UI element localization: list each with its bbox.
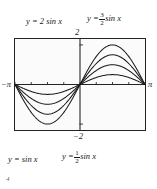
fraction-denominator: 2 (74, 158, 80, 165)
equation-prefix: y = (87, 13, 99, 23)
fraction-one-half: 12 (74, 150, 80, 165)
x-axis-tick-label-left: −π (1, 80, 11, 89)
equation-suffix: sin x (80, 151, 96, 161)
y-axis-tick-label-top: 2 (75, 28, 79, 37)
equation-label-three-halves-sinx: y =32sin x (87, 12, 121, 27)
figure-corner-mark: 4 (6, 176, 10, 183)
sine-amplitude-figure: y = 2 sin x y =32sin x y = sin x y =12si… (0, 0, 157, 189)
equation-text: y = sin x (8, 154, 38, 164)
fraction-three-halves: 32 (99, 12, 105, 27)
sine-curves-plot (15, 39, 145, 130)
equation-prefix: y = (62, 151, 74, 161)
equation-text: y = 2 sin x (26, 16, 62, 26)
equation-label-sinx: y = sin x (8, 155, 38, 164)
fraction-denominator: 2 (99, 20, 105, 27)
equation-label-half-sinx: y =12sin x (62, 150, 96, 165)
equation-label-2sinx: y = 2 sin x (26, 17, 62, 26)
equation-suffix: sin x (105, 13, 121, 23)
x-axis-tick-label-right: π (148, 80, 152, 89)
plot-area (14, 38, 146, 131)
y-axis-tick-label-bottom: −2 (73, 132, 83, 141)
